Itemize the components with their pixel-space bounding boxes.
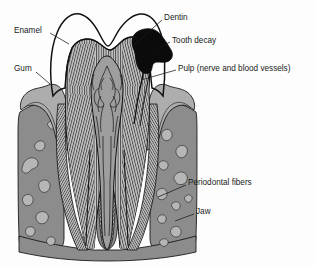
label-jaw: Jaw bbox=[196, 207, 211, 216]
label-enamel: Enamel bbox=[14, 26, 42, 35]
tooth-decay-lesion bbox=[132, 29, 172, 74]
label-pulp: Pulp (nerve and blood vessels) bbox=[178, 64, 291, 73]
label-gum: Gum bbox=[14, 64, 32, 73]
tooth-diagram: Enamel Gum Dentin Tooth decay Pulp (nerv… bbox=[0, 0, 315, 266]
tooth-cross-section-figure: Enamel Gum Dentin Tooth decay Pulp (nerv… bbox=[0, 0, 315, 266]
leader-gum bbox=[36, 72, 50, 84]
label-tooth-decay: Tooth decay bbox=[172, 36, 217, 45]
leader-enamel bbox=[50, 33, 69, 44]
label-periodontal-fibers: Periodontal fibers bbox=[188, 178, 252, 187]
label-dentin: Dentin bbox=[164, 13, 188, 22]
